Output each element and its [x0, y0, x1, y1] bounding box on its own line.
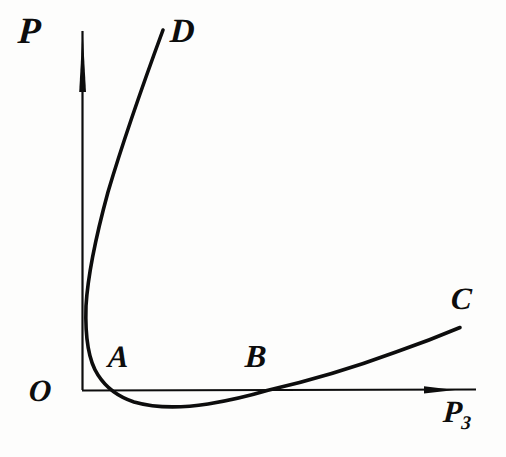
curve-path [86, 30, 460, 407]
branch-d-label: D [169, 14, 195, 48]
plot-canvas [0, 0, 506, 457]
x-axis-label: P3 [442, 396, 473, 432]
y-axis-arrowhead [79, 30, 86, 92]
y-axis-label: P [17, 12, 42, 49]
x-axis-label-subscript: 3 [461, 412, 472, 433]
x-axis-label-base: P [442, 394, 463, 429]
graph-figure: P D C A B O P3 [0, 0, 506, 457]
point-a-label: A [107, 341, 129, 372]
point-b-label: B [244, 340, 267, 372]
x-axis-line [82, 390, 476, 391]
x-axis-arrowhead [424, 386, 455, 393]
origin-label: O [28, 375, 53, 406]
branch-c-label: C [450, 283, 472, 314]
main-curve [86, 30, 460, 407]
